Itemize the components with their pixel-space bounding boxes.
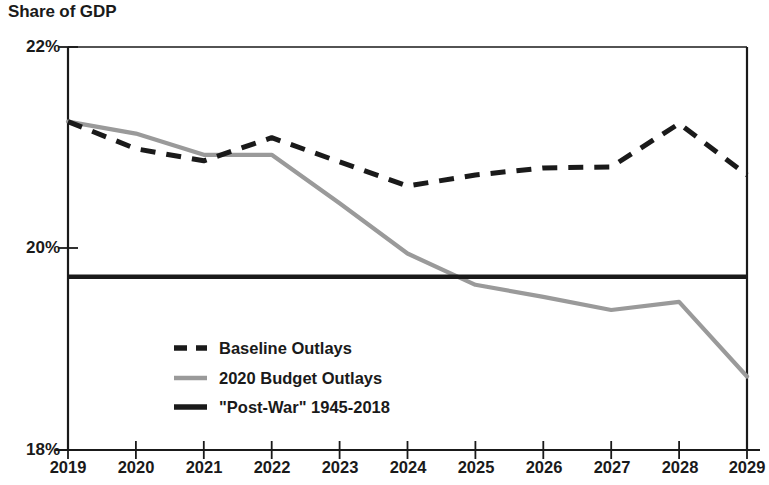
legend-item-baseline-outlays: Baseline Outlays (219, 339, 352, 358)
line-baseline-outlays (68, 122, 747, 186)
legend-item-post-war-average: "Post-War" 1945-2018 (219, 398, 390, 417)
chart-figure: Share of GDP 22% 20% 18% 2019 2020 2021 … (0, 0, 769, 485)
line-2020-budget-outlays (68, 122, 747, 377)
legend-item-2020-budget-outlays: 2020 Budget Outlays (219, 369, 382, 388)
